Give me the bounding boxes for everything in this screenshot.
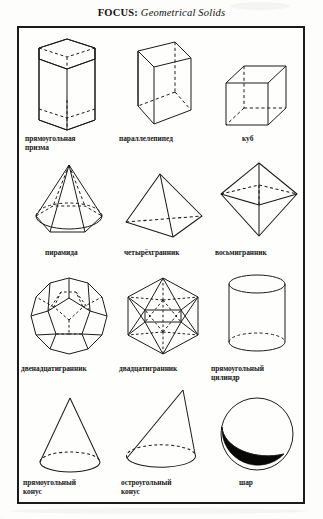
figure-page: FOCUS: Geometrical Solids (0, 0, 323, 519)
focus-label: FOCUS: (98, 7, 138, 18)
solid-label-right-cone: прямоугольный конус (23, 478, 117, 497)
parallelepiped-figure (117, 34, 209, 138)
solid-cell-cylinder: прямоугольный цилиндр (211, 268, 303, 380)
cone-right-figure (23, 392, 115, 476)
solid-label-dodecahedron: двенадцатигранник (21, 364, 119, 373)
tetrahedron-figure (117, 168, 209, 246)
solid-label-octahedron: восьмигранник (215, 248, 303, 257)
solid-label-icosahedron: двадцатигранник (119, 364, 211, 373)
solid-label-acute-cone: остроугольный конус (121, 478, 211, 497)
solids-grid: прямоугольная призма (19, 28, 303, 502)
solid-cell-acute-cone: остроугольный конус (117, 384, 209, 500)
solid-cell-right-cone: прямоугольный конус (23, 384, 115, 500)
octahedron-figure (211, 158, 303, 246)
hexagonal-prism-figure (23, 34, 115, 138)
sphere-figure (211, 394, 303, 476)
figure-frame: прямоугольная призма (17, 26, 305, 504)
solid-cell-dodecahedron: двенадцатигранник (23, 268, 115, 380)
solid-cell-parallelepiped: параллелепипед (117, 34, 209, 150)
icosahedron-figure (117, 274, 209, 358)
solid-label-rectangular-prism: прямоугольная призма (25, 134, 117, 153)
hexagonal-pyramid-figure (23, 158, 115, 246)
solid-label-cube: куб (242, 134, 302, 143)
solid-cell-octahedron: восьмигранник (211, 154, 303, 264)
topic-label: Geometrical Solids (141, 7, 225, 18)
dodecahedron-figure (23, 274, 115, 358)
scan-smudge-bottom (8, 508, 308, 514)
solid-cell-sphere: шар (211, 384, 303, 500)
cylinder-figure (211, 270, 303, 362)
cone-acute-figure (117, 386, 209, 476)
solid-cell-tetrahedron: четырёхгранник (117, 154, 209, 264)
page-title: FOCUS: Geometrical Solids (0, 7, 323, 18)
cube-figure (211, 58, 303, 140)
solid-label-parallelepiped: параллелепипед (119, 134, 211, 143)
solid-cell-icosahedron: двадцатигранник (117, 268, 209, 380)
solid-cell-rectangular-prism: прямоугольная призма (23, 34, 115, 150)
solid-cell-pyramid: пирамида (23, 154, 115, 264)
solid-label-tetrahedron: четырёхгранник (124, 248, 214, 257)
solid-label-cylinder: прямоугольный цилиндр (211, 364, 305, 383)
solid-label-sphere: шар (239, 478, 303, 487)
solid-cell-cube: куб (211, 34, 303, 150)
solid-label-pyramid: пирамида (45, 248, 117, 257)
